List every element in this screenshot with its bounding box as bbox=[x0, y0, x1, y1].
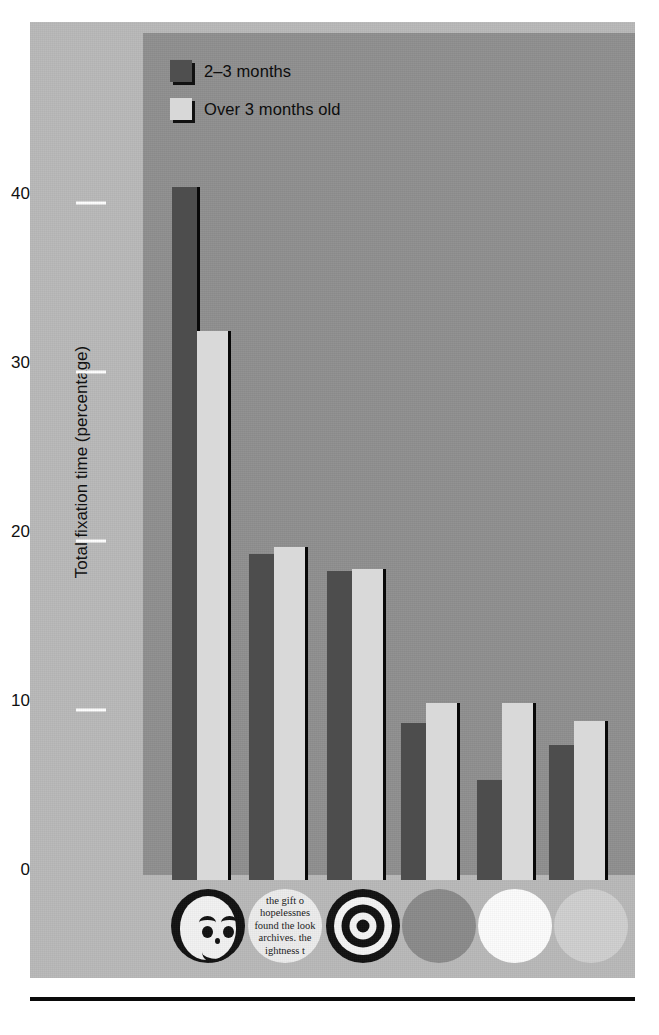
y-tick-label-0: 0 bbox=[0, 860, 30, 880]
bar-newsprint-series-1 bbox=[249, 554, 274, 880]
bar-edge bbox=[533, 703, 536, 880]
bar-plain-white-disc-series-2 bbox=[502, 703, 533, 880]
y-tick-label-30: 30 bbox=[0, 353, 30, 373]
bar-face-series-2 bbox=[197, 331, 228, 880]
figure-container: 2–3 months Over 3 months old Total fixat… bbox=[30, 22, 635, 978]
y-tick-label-40: 40 bbox=[0, 184, 30, 204]
legend-label-2-3-months: 2–3 months bbox=[204, 62, 291, 81]
bars-layer bbox=[30, 22, 635, 978]
bar-edge bbox=[228, 331, 231, 880]
bar-face-series-1 bbox=[172, 187, 197, 880]
legend-label-over-3-months: Over 3 months old bbox=[204, 100, 341, 119]
bar-newsprint-series-2 bbox=[274, 547, 305, 880]
bar-plain-grey-disc-series-1 bbox=[401, 723, 426, 880]
legend-swatch-light bbox=[170, 98, 192, 120]
y-tick-label-20: 20 bbox=[0, 522, 30, 542]
bar-edge bbox=[605, 721, 608, 880]
legend-swatch-dark bbox=[170, 60, 192, 82]
bar-bullseye-series-2 bbox=[352, 569, 383, 880]
bar-plain-light-grey-disc-series-2 bbox=[574, 721, 605, 880]
bar-edge bbox=[383, 569, 386, 880]
bar-edge bbox=[305, 547, 308, 880]
bottom-rule bbox=[30, 997, 635, 1001]
legend-item-2-3-months: 2–3 months bbox=[170, 60, 341, 82]
bar-plain-white-disc-series-1 bbox=[477, 780, 502, 880]
bar-plain-light-grey-disc-series-1 bbox=[549, 745, 574, 880]
bar-plain-grey-disc-series-2 bbox=[426, 703, 457, 880]
legend-item-over-3-months: Over 3 months old bbox=[170, 98, 341, 120]
chart-legend: 2–3 months Over 3 months old bbox=[170, 60, 341, 136]
bar-bullseye-series-1 bbox=[327, 571, 352, 880]
y-tick-label-10: 10 bbox=[0, 691, 30, 711]
bar-edge bbox=[457, 703, 460, 880]
